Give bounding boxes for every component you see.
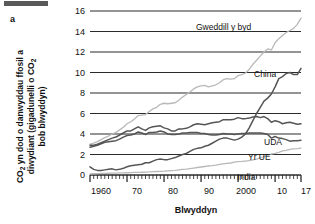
series-label-eu: Yr UE <box>248 152 271 162</box>
figure-panel-a: a CO2 yn dod o danwyddau ffosil a diwydi… <box>0 0 315 224</box>
chart-plot-area <box>0 0 315 224</box>
series-label-india: India <box>237 172 255 182</box>
x-axis-ticks <box>90 175 301 182</box>
series-line-gweddill-y-byd <box>90 18 301 144</box>
series-label-usa: UDA <box>264 137 282 147</box>
gridlines <box>90 11 301 175</box>
series-label-china: China <box>254 69 276 79</box>
data-series-lines <box>90 18 301 174</box>
series-label-rest-of-world: Gweddill y byd <box>196 22 251 32</box>
x-axis-label: Blwyddyn <box>90 205 302 215</box>
